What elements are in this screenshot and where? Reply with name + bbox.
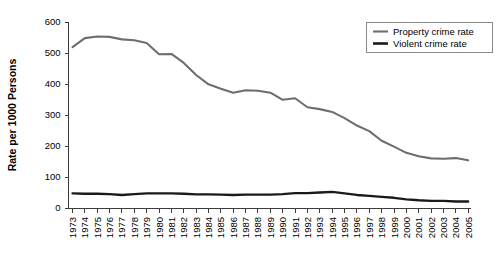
y-tick-label: 500	[45, 47, 61, 58]
x-tick-label: 1979	[141, 217, 152, 238]
x-tick-label: 1991	[290, 217, 301, 238]
x-tick-label: 1977	[116, 217, 127, 238]
x-tick-label: 1994	[327, 217, 338, 238]
x-tick-label: 1992	[302, 217, 313, 238]
chart-legend: Property crime rate Violent crime rate	[367, 23, 493, 53]
x-tick-label: 1996	[351, 217, 362, 238]
y-tick-label: 600	[45, 16, 61, 27]
x-tick-label: 1988	[252, 217, 263, 238]
y-axis-title-label: Rate per 1000 Persons	[6, 59, 18, 172]
x-tick-label: 1995	[339, 217, 350, 238]
x-axis-ticks: 1973197419751976197719781979198019811982…	[67, 208, 474, 238]
x-tick-label: 1999	[389, 217, 400, 238]
x-tick-label: 2005	[463, 217, 474, 238]
x-tick-label: 1976	[104, 217, 115, 238]
x-tick-label: 1981	[166, 217, 177, 238]
x-tick-label: 1985	[215, 217, 226, 238]
x-tick-label: 1998	[376, 217, 387, 238]
data-series-layer	[73, 37, 469, 202]
series-line-property-crime-rate	[73, 37, 469, 161]
x-tick-label: 1984	[203, 217, 214, 238]
y-tick-label: 400	[45, 78, 61, 89]
x-tick-label: 2002	[426, 217, 437, 238]
x-tick-label: 1987	[240, 217, 251, 238]
x-tick-label: 1990	[277, 217, 288, 238]
y-tick-label: 200	[45, 140, 61, 151]
y-tick-label: 0	[55, 202, 60, 213]
crime-rate-line-chart: Rate per 1000 Persons 010020030040050060…	[0, 0, 498, 264]
x-tick-label: 1997	[364, 217, 375, 238]
series-line-violent-crime-rate	[73, 192, 469, 202]
y-tick-label: 300	[45, 109, 61, 120]
y-axis-title: Rate per 1000 Persons	[6, 59, 18, 172]
x-tick-label: 1980	[154, 217, 165, 238]
x-tick-label: 2003	[438, 217, 449, 238]
x-tick-label: 1978	[129, 217, 140, 238]
x-tick-label: 1975	[92, 217, 103, 238]
x-tick-label: 1982	[178, 217, 189, 238]
x-tick-label: 2000	[401, 217, 412, 238]
x-tick-label: 2004	[450, 217, 461, 238]
y-tick-label: 100	[45, 171, 61, 182]
legend-label-violent-crime-rate: Violent crime rate	[393, 38, 467, 49]
y-axis-ticks: 0100200300400500600	[45, 16, 69, 213]
x-tick-label: 1993	[314, 217, 325, 238]
x-tick-label: 1989	[265, 217, 276, 238]
legend-label-property-crime-rate: Property crime rate	[393, 26, 474, 37]
x-tick-label: 1973	[67, 217, 78, 238]
x-tick-label: 1974	[79, 217, 90, 238]
x-tick-label: 2001	[413, 217, 424, 238]
x-tick-label: 1986	[228, 217, 239, 238]
x-tick-label: 1983	[191, 217, 202, 238]
chart-canvas: Rate per 1000 Persons 010020030040050060…	[0, 0, 498, 264]
